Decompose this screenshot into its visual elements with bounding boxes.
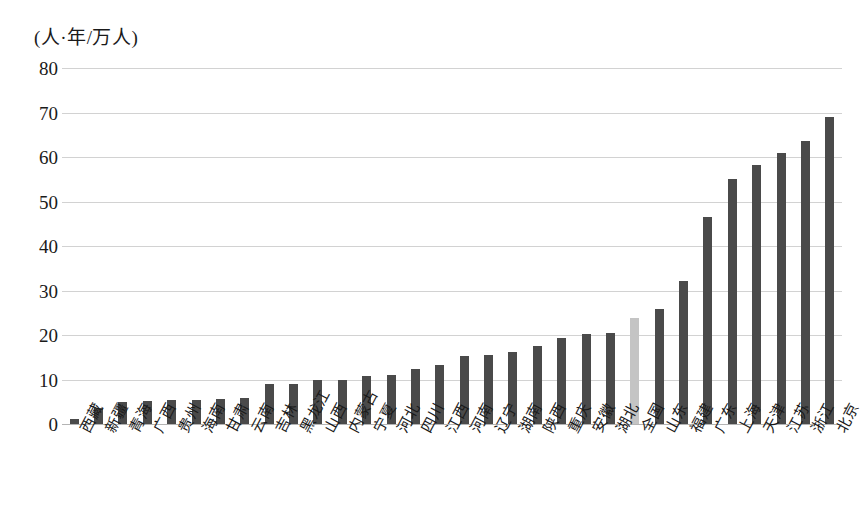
bar-上海[interactable]: [728, 179, 737, 424]
bar-chart: (人·年/万人) 01020304050607080 西藏新疆青海广西贵州海南甘…: [0, 0, 860, 531]
y-tick-label-40: 40: [12, 237, 58, 256]
bar-天津[interactable]: [752, 165, 761, 424]
y-tick-label-60: 60: [12, 148, 58, 167]
bar-浙江[interactable]: [801, 141, 810, 424]
bar-江苏[interactable]: [777, 153, 786, 424]
y-tick-label-0: 0: [12, 415, 58, 434]
bar-北京[interactable]: [825, 117, 834, 424]
y-tick-label-50: 50: [12, 193, 58, 212]
y-tick-label-10: 10: [12, 371, 58, 390]
x-axis-label-layer: 西藏新疆青海广西贵州海南甘肃云南吉林黑龙江山西内蒙古宁夏河北四川江西河南辽宁湖南…: [62, 424, 842, 529]
y-tick-label-30: 30: [12, 282, 58, 301]
bar-广东[interactable]: [703, 217, 712, 424]
y-axis-unit-label: (人·年/万人): [34, 22, 138, 49]
y-axis-tick-layer: 01020304050607080: [0, 68, 58, 424]
y-tick-label-70: 70: [12, 104, 58, 123]
y-tick-label-20: 20: [12, 326, 58, 345]
y-tick-label-80: 80: [12, 59, 58, 78]
bars-layer: [62, 68, 842, 424]
